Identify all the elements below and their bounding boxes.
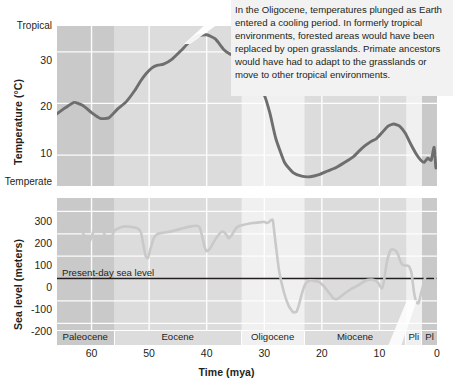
xtick-30: 30 xyxy=(249,347,279,359)
xtick-50: 50 xyxy=(134,347,164,359)
epoch-label: Paleocene xyxy=(63,331,108,342)
figure-root: Temperature (°C) Tropical 30 20 10 Tempe… xyxy=(0,0,453,392)
epoch-label: Eocene xyxy=(161,331,194,342)
epoch-band-paleocene: Paleocene xyxy=(57,331,115,345)
temperature-ytick-20: 20 xyxy=(22,100,52,112)
sealevel-ytick-minus200: -200 xyxy=(14,325,52,337)
xtick-40: 40 xyxy=(192,347,222,359)
xtick-20: 20 xyxy=(307,347,337,359)
xtick-0: 0 xyxy=(422,347,452,359)
epoch-label: Oligocene xyxy=(251,331,294,342)
xtick-row: 6050403020100 xyxy=(57,347,437,361)
sealevel-ytick-0: 0 xyxy=(20,281,52,293)
time-axis-title: Time (mya) xyxy=(0,366,453,378)
callout-leader-bottom xyxy=(355,300,453,392)
xtick-60: 60 xyxy=(77,347,107,359)
temperature-ytick-tropical: Tropical xyxy=(2,20,52,31)
temperature-ytick-30: 30 xyxy=(22,54,52,66)
present-day-sea-level-label: Present-day sea level xyxy=(62,267,154,278)
epoch-band-oligocene: Oligocene xyxy=(242,331,305,345)
temperature-ytick-temperate: Temperate xyxy=(0,176,52,187)
xtick-10: 10 xyxy=(364,347,394,359)
temperature-ytick-10: 10 xyxy=(22,147,52,159)
sealevel-ytick-100: 100 xyxy=(20,259,52,271)
sealevel-ytick-300: 300 xyxy=(20,215,52,227)
epoch-band-eocene: Eocene xyxy=(115,331,242,345)
annotation-callout: In the Oligocene, temperatures plunged a… xyxy=(231,0,453,96)
sealevel-ytick-200: 200 xyxy=(20,237,52,249)
sealevel-ytick-minus100: -100 xyxy=(14,303,52,315)
